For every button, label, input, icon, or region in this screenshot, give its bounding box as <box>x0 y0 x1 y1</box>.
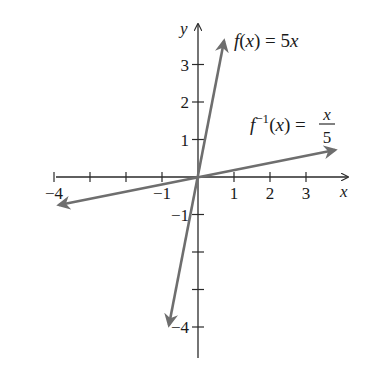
y-axis: 321−1−4 y <box>171 19 204 358</box>
y-tick-label: 3 <box>181 56 190 75</box>
x-tick-label: 3 <box>302 184 311 203</box>
series-f-line <box>169 41 224 325</box>
svg-text:5: 5 <box>323 128 332 147</box>
series-f-inverse-label: f−1(x) = x 5 <box>250 105 335 147</box>
y-axis-label: y <box>178 19 188 38</box>
series-f-label: f(x) = 5x <box>234 30 299 52</box>
x-axis-label: x <box>339 182 348 201</box>
x-tick-label: 1 <box>230 184 239 203</box>
svg-text:f−1(x) =: f−1(x) = <box>250 111 306 136</box>
function-inverse-plot: −4−1123 x 321−1−4 y f(x) = 5x f−1(x) = x… <box>0 0 371 375</box>
svg-text:x: x <box>322 105 331 124</box>
x-tick-label: −4 <box>45 184 64 203</box>
y-tick-label: 1 <box>181 131 190 150</box>
y-tick-label: −1 <box>171 206 189 225</box>
y-tick-label: 2 <box>181 93 190 112</box>
y-tick-label: −4 <box>171 318 190 337</box>
x-tick-label: 2 <box>266 184 275 203</box>
